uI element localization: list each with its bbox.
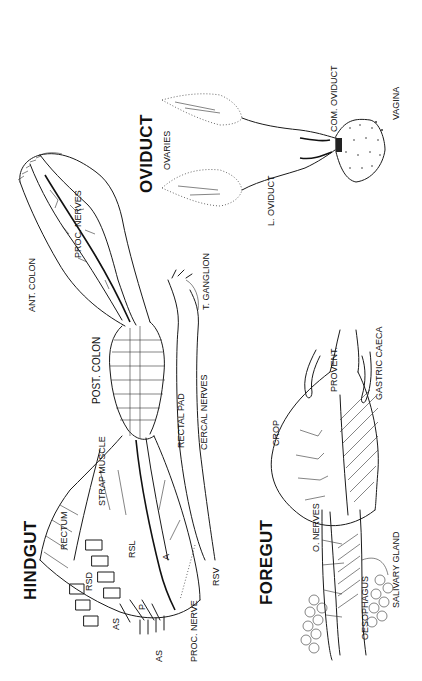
com-oviduct-label: COM. OVIDUCT — [330, 66, 339, 133]
salivary-gland-label: SALIVARY GLAND — [392, 531, 401, 608]
vagina-label: VAGINA — [392, 87, 401, 120]
o-nerves-label: O. NERVES — [312, 503, 321, 552]
oesophagus-label: OESOPHAGUS — [361, 576, 370, 640]
gastric-caeca-label: GASTRIC CAECA — [375, 326, 384, 400]
l-oviduct-label: L. OVIDUCT — [267, 175, 276, 226]
as-lower-label: AS — [155, 650, 164, 662]
strap-muscle-label: STRAP MUSCLE — [98, 436, 107, 506]
foregut-title: FOREGUT — [258, 520, 275, 605]
t-ganglion-label: T. GANGLION — [202, 253, 211, 310]
p-label: P — [138, 604, 147, 610]
anatomy-diagram: HINDGUT RECTUM RSD RSL RSV AS AS P A STR… — [0, 0, 422, 681]
post-colon-label: POST. COLON — [92, 337, 102, 404]
crop-label: CROP — [272, 420, 281, 446]
rectal-pad-label: RECTAL PAD — [177, 393, 186, 448]
hindgut-title: HINDGUT — [22, 520, 39, 600]
a-label: A — [162, 554, 171, 560]
rsl-label: RSL — [128, 540, 137, 558]
rsd-label: RSD — [85, 572, 94, 591]
proc-nerves-label: PROC. NERVES — [74, 190, 83, 258]
ovaries-label: OVARIES — [163, 131, 172, 170]
as-upper-label: AS — [112, 618, 121, 630]
oviduct-title: OVIDUCT — [138, 114, 155, 193]
rectum-label: RECTUM — [60, 512, 69, 551]
cercal-nerves-label: CERCAL NERVES — [200, 374, 209, 450]
ant-colon-label: ANT. COLON — [28, 258, 37, 312]
proc-nerve-label: PROC. NERVE — [190, 600, 199, 662]
rsv-label: RSV — [212, 567, 221, 586]
provent-label: PROVENT. — [330, 347, 339, 392]
